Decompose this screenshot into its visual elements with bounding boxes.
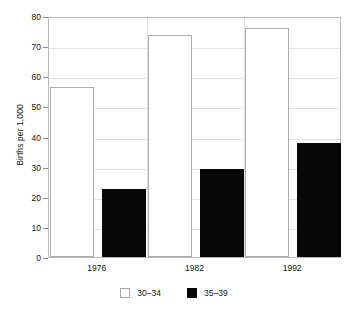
x-tick-label: 1992 (257, 264, 327, 273)
x-tick-label: 1976 (62, 264, 132, 273)
gridline (49, 78, 340, 79)
y-tick-mark (43, 258, 48, 259)
bar-chart-figure: Births per 1,000 01020304050607080 19761… (0, 0, 348, 311)
legend-swatch-30–34 (120, 288, 130, 298)
bar-1992-30–34 (245, 28, 289, 257)
legend-label: 30–34 (137, 289, 161, 298)
bar-1982-30–34 (148, 35, 192, 257)
y-tick-label: 20 (1, 194, 41, 203)
y-tick-label: 0 (1, 254, 41, 263)
legend-item: 35–39 (187, 288, 228, 298)
y-tick-label: 60 (1, 73, 41, 82)
y-tick-label: 30 (1, 164, 41, 173)
y-tick-label: 40 (1, 134, 41, 143)
bar-1976-35–39 (102, 189, 146, 257)
bar-1976-30–34 (50, 87, 94, 257)
bar-1982-35–39 (200, 169, 244, 257)
y-tick-label: 50 (1, 103, 41, 112)
chart-legend: 30–3435–39 (0, 288, 348, 298)
legend-swatch-35–39 (187, 288, 197, 298)
plot-area (48, 17, 341, 258)
legend-label: 35–39 (204, 289, 228, 298)
x-tick-label: 1982 (160, 264, 230, 273)
bar-1992-35–39 (297, 143, 341, 257)
y-tick-label: 80 (1, 13, 41, 22)
y-tick-label: 70 (1, 43, 41, 52)
y-tick-label: 10 (1, 224, 41, 233)
legend-item: 30–34 (120, 288, 161, 298)
gridline (49, 48, 340, 49)
